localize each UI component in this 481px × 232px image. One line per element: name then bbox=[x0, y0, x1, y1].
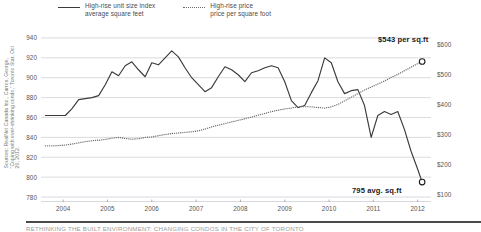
y-tick-label-right: $600 bbox=[437, 41, 467, 48]
legend-label-unit-size-index: High-rise unit size index average square… bbox=[85, 2, 155, 19]
legend-label-line2: price per square foot bbox=[210, 10, 271, 17]
endpoint-marker-price bbox=[419, 59, 425, 65]
series-line-price bbox=[45, 62, 422, 146]
series-line-unit-size bbox=[45, 51, 422, 182]
y-tick-label-left: 780 bbox=[13, 194, 37, 201]
legend-solid-line-icon bbox=[58, 3, 80, 13]
x-tick-label: 2009 bbox=[268, 205, 302, 212]
plot-area bbox=[41, 30, 431, 202]
y-tick-label-right: $200 bbox=[437, 161, 467, 168]
y-tick-label-right: $100 bbox=[437, 191, 467, 198]
legend-entry-unit-size-index: High-rise unit size index average square… bbox=[58, 2, 155, 24]
x-tick-label: 2006 bbox=[135, 205, 169, 212]
legend-entry-high-rise-price: High-rise price price per square foot bbox=[183, 2, 271, 24]
footer-caption: RETHINKING THE BUILT ENVIRONMENT: CHANGI… bbox=[26, 225, 481, 232]
x-tick-label: 2011 bbox=[356, 205, 390, 212]
annotation-price-label: $543 per sq.ft bbox=[378, 35, 428, 44]
y-tick-label-left: 940 bbox=[13, 34, 37, 41]
y-tick-label-left: 860 bbox=[13, 114, 37, 121]
y-tick-label-left: 800 bbox=[13, 174, 37, 181]
y-tick-label-left: 840 bbox=[13, 134, 37, 141]
y-tick-label-right: $400 bbox=[437, 101, 467, 108]
x-tick-label: 2004 bbox=[46, 205, 80, 212]
y-tick-label-right: $500 bbox=[437, 71, 467, 78]
y-tick-label-left: 880 bbox=[13, 94, 37, 101]
legend-label-line1: High-rise price bbox=[210, 2, 253, 9]
annotation-size-label: 795 avg. sq.ft bbox=[352, 186, 402, 195]
y-tick-label-left: 900 bbox=[13, 74, 37, 81]
chart-page: High-rise unit size index average square… bbox=[0, 0, 481, 232]
x-tick-label: 2010 bbox=[312, 205, 346, 212]
legend-label-high-rise-price: High-rise price price per square foot bbox=[210, 2, 271, 19]
x-tick-label: 2008 bbox=[223, 205, 257, 212]
legend-label-line2: average square feet bbox=[85, 10, 144, 17]
legend-dotted-line-icon bbox=[183, 3, 205, 13]
footer-divider bbox=[26, 221, 481, 223]
chart-svg bbox=[41, 30, 431, 202]
x-tick-label: 2005 bbox=[90, 205, 124, 212]
y-tick-label-left: 820 bbox=[13, 154, 37, 161]
endpoint-marker-unit-size bbox=[419, 179, 425, 185]
chart-legend: High-rise unit size index average square… bbox=[58, 2, 388, 24]
y-tick-label-left: 920 bbox=[13, 54, 37, 61]
legend-label-line1: High-rise unit size index bbox=[85, 2, 155, 9]
x-tick-label: 2012 bbox=[401, 205, 435, 212]
y-tick-label-right: $300 bbox=[437, 131, 467, 138]
x-tick-label: 2007 bbox=[179, 205, 213, 212]
